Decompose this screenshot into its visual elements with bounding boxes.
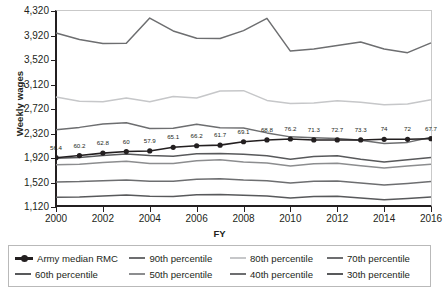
- x-tick-label: 2016: [411, 214, 447, 224]
- x-tick-mark: [384, 207, 385, 212]
- legend-item[interactable]: 30th percentile: [327, 269, 424, 280]
- x-tick-mark: [244, 207, 245, 212]
- x-axis-title: FY: [0, 228, 439, 239]
- y-tick-label: 4,320: [0, 6, 49, 16]
- series-marker: [124, 149, 129, 154]
- x-tick-label: 2000: [36, 214, 76, 224]
- y-tick-label: 3,120: [0, 80, 49, 90]
- y-tick-label: 2,720: [0, 104, 49, 114]
- series-marker: [311, 137, 316, 142]
- y-tick-label: 2,320: [0, 129, 49, 139]
- legend-swatch: [129, 257, 145, 260]
- series-marker: [194, 143, 199, 148]
- x-tick-mark: [150, 207, 151, 212]
- legend-swatch: [230, 273, 246, 276]
- series-marker: [405, 137, 410, 142]
- series-marker: [77, 153, 82, 158]
- x-tick-mark: [431, 207, 432, 212]
- x-tick-mark: [56, 207, 57, 212]
- y-axis-title: Weekly wages: [14, 44, 25, 164]
- y-tick-label: 3,520: [0, 55, 49, 65]
- y-tick-mark: [51, 207, 56, 208]
- data-point-label: 67.7: [414, 125, 447, 132]
- series-line: [56, 153, 431, 162]
- legend-item[interactable]: 90th percentile: [129, 253, 230, 264]
- plot-area: [55, 10, 432, 207]
- series-marker: [264, 137, 269, 142]
- x-tick-mark: [103, 207, 104, 212]
- legend-swatch: [327, 273, 343, 276]
- series-line: [56, 91, 431, 105]
- legend-label: 40th percentile: [250, 269, 313, 280]
- legend-label: 70th percentile: [347, 253, 410, 264]
- legend-item[interactable]: 40th percentile: [230, 269, 327, 280]
- legend-item[interactable]: 50th percentile: [129, 269, 230, 280]
- series-marker: [241, 139, 246, 144]
- legend-item[interactable]: Army median RMC: [15, 253, 129, 264]
- series-marker: [171, 145, 176, 150]
- series-marker: [335, 137, 340, 142]
- x-tick-label: 2010: [270, 214, 310, 224]
- y-tick-label: 3,920: [0, 31, 49, 41]
- series-line: [56, 194, 431, 199]
- series-marker: [382, 137, 387, 142]
- series-marker: [147, 148, 152, 153]
- y-tick-label: 1,520: [0, 178, 49, 188]
- legend-swatch: [327, 257, 343, 260]
- x-tick-label: 2002: [83, 214, 123, 224]
- x-tick-mark: [197, 207, 198, 212]
- legend-row-2: 60th percentile50th percentile40th perce…: [15, 266, 424, 282]
- legend-label: 90th percentile: [149, 253, 212, 264]
- legend-marker-icon: [15, 254, 33, 262]
- x-tick-label: 2012: [317, 214, 357, 224]
- series-marker: [358, 137, 363, 142]
- x-tick-label: 2014: [364, 214, 404, 224]
- series-marker: [288, 136, 293, 141]
- x-tick-mark: [290, 207, 291, 212]
- legend-row-1: Army median RMC90th percentile80th perce…: [15, 250, 424, 266]
- series-marker: [100, 151, 105, 156]
- chart-legend: Army median RMC90th percentile80th perce…: [8, 245, 431, 287]
- x-tick-label: 2008: [224, 214, 264, 224]
- series-line: [56, 179, 431, 185]
- legend-label: 80th percentile: [250, 253, 313, 264]
- x-tick-mark: [337, 207, 338, 212]
- y-tick-label: 1,120: [0, 202, 49, 212]
- x-tick-label: 2004: [130, 214, 170, 224]
- legend-label: Army median RMC: [37, 253, 118, 264]
- legend-item[interactable]: 80th percentile: [230, 253, 327, 264]
- legend-label: 60th percentile: [35, 269, 98, 280]
- legend-label: 30th percentile: [347, 269, 410, 280]
- series-marker: [217, 143, 222, 148]
- x-tick-label: 2006: [177, 214, 217, 224]
- series-marker: [55, 155, 59, 160]
- chart-lines: [55, 10, 432, 207]
- legend-swatch: [129, 273, 145, 276]
- legend-swatch: [230, 257, 246, 260]
- legend-swatch: [15, 273, 31, 276]
- legend-label: 50th percentile: [149, 269, 212, 280]
- y-tick-label: 1,920: [0, 153, 49, 163]
- legend-item[interactable]: 60th percentile: [15, 269, 129, 280]
- series-line: [56, 18, 431, 53]
- legend-item[interactable]: 70th percentile: [327, 253, 424, 264]
